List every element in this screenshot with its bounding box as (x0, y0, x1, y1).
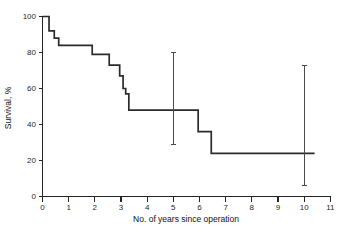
x-tick-label-1: 1 (66, 203, 71, 212)
x-tick-label-4: 4 (145, 203, 150, 212)
y-tick-label-20: 20 (27, 156, 36, 165)
x-tick-label-5: 5 (171, 203, 176, 212)
km-survival-plot: 0 20 40 60 80 100 0 1 2 3 (0, 0, 348, 233)
y-axis-ticks (39, 17, 43, 197)
x-tick-label-2: 2 (93, 203, 98, 212)
y-tick-label-100: 100 (23, 12, 37, 21)
y-tick-label-60: 60 (27, 84, 36, 93)
x-tick-label-3: 3 (119, 203, 124, 212)
x-tick-label-11: 11 (326, 203, 335, 212)
y-tick-label-40: 40 (27, 120, 36, 129)
y-axis-tick-labels: 0 20 40 60 80 100 (23, 12, 37, 201)
survival-step-curve (43, 17, 315, 154)
y-tick-label-80: 80 (27, 48, 36, 57)
x-tick-label-10: 10 (300, 203, 309, 212)
y-axis-title: Survival, % (3, 86, 13, 129)
x-tick-label-9: 9 (276, 203, 281, 212)
x-tick-label-7: 7 (223, 203, 228, 212)
x-tick-label-0: 0 (40, 203, 45, 212)
x-axis-title: No. of years since operation (133, 214, 239, 224)
survival-chart-figure: 0 20 40 60 80 100 0 1 2 3 (0, 0, 348, 233)
x-tick-label-8: 8 (250, 203, 255, 212)
y-tick-label-0: 0 (32, 192, 37, 201)
error-bars-group (171, 53, 307, 186)
x-axis-tick-labels: 0 1 2 3 4 5 6 7 8 9 10 11 (40, 203, 335, 212)
x-tick-label-6: 6 (197, 203, 202, 212)
x-axis-ticks (43, 197, 331, 202)
